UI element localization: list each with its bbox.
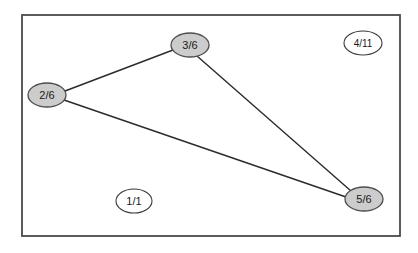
node-1-1-shape[interactable] xyxy=(116,189,152,213)
diagram-frame xyxy=(22,15,400,236)
node-4-11[interactable]: 4/11 xyxy=(344,31,382,55)
node-1-1[interactable]: 1/1 xyxy=(116,189,152,213)
graph-diagram: 2/6 3/6 5/6 4/11 1/1 xyxy=(0,0,418,253)
node-5-6-shape[interactable] xyxy=(345,187,383,211)
node-4-11-shape[interactable] xyxy=(344,31,382,55)
node-2-6-shape[interactable] xyxy=(28,83,66,107)
node-2-6[interactable]: 2/6 xyxy=(28,83,66,107)
node-3-6-shape[interactable] xyxy=(171,33,209,57)
node-3-6[interactable]: 3/6 xyxy=(171,33,209,57)
node-5-6[interactable]: 5/6 xyxy=(345,187,383,211)
